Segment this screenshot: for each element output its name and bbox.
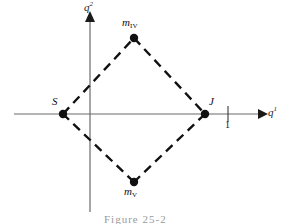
vertex-dot-m4 [130,34,138,42]
edge-j-to-m5 [134,114,205,182]
vertex-label-m-five: mV [124,186,137,197]
vertex-label-j-base: J [209,95,214,107]
vertex-label-s-base: S [52,95,58,107]
weight-diagram-plot [0,0,286,224]
edge-s-to-m4 [63,38,134,114]
x-axis-arrowhead [258,109,268,119]
vertex-label-m-five-base: m [124,185,132,197]
x-axis-tick-label-1: 1 [225,120,230,130]
vertex-label-s: S [52,96,58,107]
vertex-dot-j [201,110,209,118]
y-axis-label: q2 [84,2,93,13]
vertex-label-m-four: mIV [122,17,138,28]
vertex-label-m-five-subscript: V [132,191,137,199]
x-axis-label-superscript: 1 [274,105,278,113]
vertex-dot-s [59,110,67,118]
vertex-label-m-four-subscript: IV [130,22,138,30]
edge-m4-to-j [134,38,205,114]
vertex-label-m-four-base: m [122,16,130,28]
y-axis-label-superscript: 2 [90,0,94,8]
edge-m5-to-s [63,114,134,182]
figure-caption: Figure 25-2 [104,214,167,224]
vertex-label-j: J [209,96,214,107]
figure-container: q2 q1 S J mIV mV 1 Figure 25-2 [0,0,286,224]
x-axis-label: q1 [268,107,277,118]
